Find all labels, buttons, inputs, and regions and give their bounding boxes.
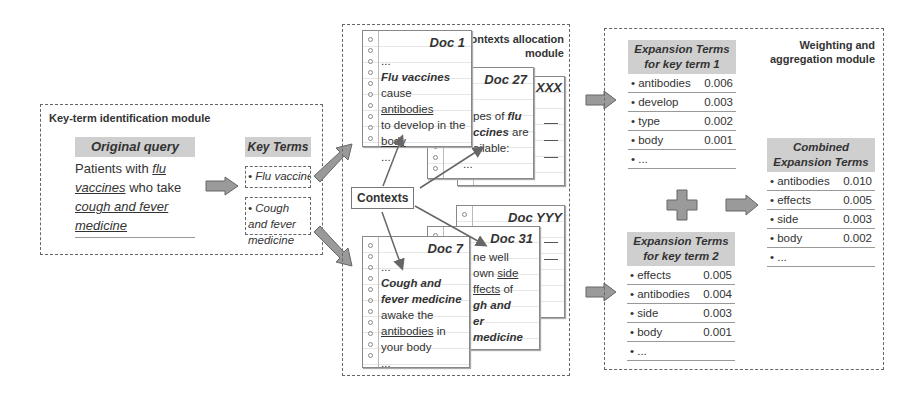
- table-row: • side0.003: [767, 210, 875, 229]
- term: • type: [631, 112, 660, 130]
- table-header-line: Expansion Terms: [627, 234, 735, 249]
- term: • effects: [770, 191, 811, 209]
- table-row: • antibodies0.010: [767, 172, 875, 191]
- weighting-module-title-line2: aggregation module: [760, 52, 875, 66]
- score: 0.006: [704, 74, 733, 92]
- table-row: • body0.001: [627, 323, 735, 342]
- term: • antibodies: [630, 285, 690, 303]
- table-row: • ...: [767, 248, 875, 267]
- term: • ...: [630, 342, 647, 360]
- score: 0.003: [843, 210, 872, 228]
- term: • antibodies: [631, 74, 691, 92]
- combined-expansion-terms-table: Combined Expansion Terms • antibodies0.0…: [767, 138, 875, 267]
- term: • body: [631, 131, 663, 149]
- score: 0.005: [843, 191, 872, 209]
- score: 0.001: [704, 131, 733, 149]
- contexts-label: Contexts: [351, 187, 414, 209]
- table-header-line: for key term 1: [628, 57, 736, 72]
- score: 0.003: [703, 304, 732, 322]
- score: 0.004: [703, 285, 732, 303]
- score: 0.002: [843, 229, 872, 247]
- score: 0.010: [843, 172, 872, 190]
- table-row: • develop0.003: [628, 93, 736, 112]
- right-arrow-icon: [725, 194, 759, 216]
- term: • ...: [770, 248, 787, 266]
- table-row: • antibodies0.004: [627, 285, 735, 304]
- term: • ...: [631, 150, 648, 168]
- term: • effects: [630, 266, 671, 284]
- table-row: • antibodies0.006: [628, 74, 736, 93]
- table-header-line: Expansion Terms: [628, 42, 736, 57]
- weighting-module-title-line1: Weighting and: [760, 38, 875, 52]
- term: • side: [770, 210, 798, 228]
- term: • antibodies: [770, 172, 830, 190]
- plus-icon: [666, 189, 698, 221]
- table-1-header: Expansion Terms for key term 1: [628, 40, 736, 74]
- score: 0.003: [704, 93, 733, 111]
- score: 0.002: [704, 112, 733, 130]
- table-header-line: Combined: [767, 140, 875, 155]
- table-row: • effects0.005: [627, 266, 735, 285]
- table-row: • effects0.005: [767, 191, 875, 210]
- score: 0.001: [703, 323, 732, 341]
- term: • develop: [631, 93, 679, 111]
- table-row: • side0.003: [627, 304, 735, 323]
- combined-table-header: Combined Expansion Terms: [767, 138, 875, 172]
- table-row: • body0.002: [767, 229, 875, 248]
- weighting-module-title: Weighting and aggregation module: [760, 38, 875, 66]
- table-row: • ...: [628, 150, 736, 169]
- term: • body: [630, 323, 662, 341]
- table-row: • type0.002: [628, 112, 736, 131]
- table-row: • body0.001: [628, 131, 736, 150]
- table-header-line: Expansion Terms: [767, 155, 875, 170]
- expansion-terms-table-1: Expansion Terms for key term 1 • antibod…: [628, 40, 736, 169]
- table-row: • ...: [627, 342, 735, 361]
- term: • body: [770, 229, 802, 247]
- table-2-header: Expansion Terms for key term 2: [627, 232, 735, 266]
- score: 0.005: [703, 266, 732, 284]
- term: • side: [630, 304, 658, 322]
- table-header-line: for key term 2: [627, 249, 735, 264]
- expansion-terms-table-2: Expansion Terms for key term 2 • effects…: [627, 232, 735, 361]
